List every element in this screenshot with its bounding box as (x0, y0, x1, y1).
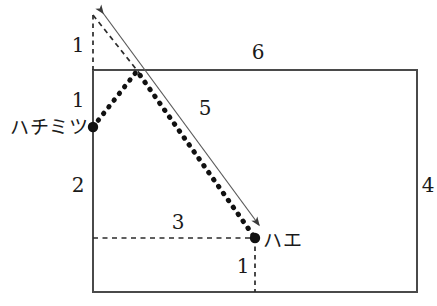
honey-point-label: ハチミツ (10, 118, 88, 137)
measure-label-top-gap: 1 (72, 35, 85, 55)
fly-point-label: ハエ (263, 231, 302, 250)
measure-label-fly-to-bottom: 1 (237, 256, 250, 276)
geometry-figure: 1 1 2 3 4 5 6 1 ハチミツ ハエ (0, 0, 437, 306)
straight-distance-arrow (103, 13, 259, 225)
measure-label-honey-to-top: 1 (72, 90, 85, 110)
measure-label-floor-run: 3 (172, 212, 185, 232)
mirror-image-dashed-line (93, 15, 140, 74)
figure-canvas (0, 0, 437, 306)
honey-point (88, 122, 98, 132)
fly-point (250, 233, 260, 243)
measure-label-straight-distance: 5 (199, 98, 212, 118)
measure-label-right-side: 4 (422, 175, 435, 195)
measure-label-top-width: 6 (252, 42, 265, 62)
measure-label-honey-to-floor: 2 (72, 175, 85, 195)
